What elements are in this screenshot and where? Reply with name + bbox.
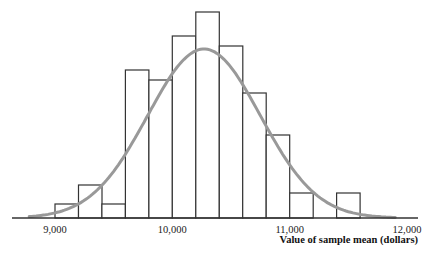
x-axis-label: Value of sample mean (dollars) bbox=[280, 234, 419, 246]
histogram-bar bbox=[102, 204, 126, 218]
histogram-bar bbox=[149, 80, 173, 218]
histogram-bar bbox=[243, 93, 267, 218]
histogram-bar bbox=[125, 70, 148, 218]
histogram-bar bbox=[219, 46, 243, 218]
histogram-bar bbox=[290, 193, 314, 218]
x-tick-label: 10,000 bbox=[158, 224, 187, 235]
histogram-bar bbox=[172, 36, 196, 218]
histogram-chart: 9,00010,00011,00012,000 Value of sample … bbox=[0, 0, 429, 257]
histogram-bar bbox=[196, 12, 220, 218]
x-tick-label: 9,000 bbox=[43, 224, 67, 235]
